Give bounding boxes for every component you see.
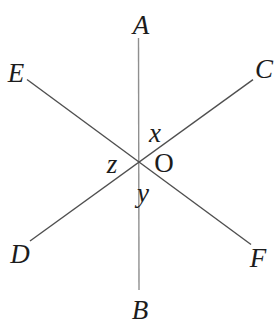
point-label-b: B	[132, 297, 149, 324]
angle-label-z: z	[107, 151, 118, 178]
point-label-c: C	[255, 56, 273, 83]
point-label-d: D	[10, 241, 30, 268]
point-label-e: E	[8, 60, 25, 87]
point-label-a: A	[133, 12, 150, 39]
line-ab	[139, 38, 140, 290]
angle-label-x: x	[149, 120, 161, 147]
line-dc	[30, 80, 253, 241]
geometry-figure: A B C D E F O x y z	[0, 0, 277, 326]
point-label-f: F	[250, 245, 267, 272]
diagram-canvas	[0, 0, 277, 326]
angle-label-y: y	[137, 180, 149, 207]
point-label-o: O	[154, 150, 174, 177]
